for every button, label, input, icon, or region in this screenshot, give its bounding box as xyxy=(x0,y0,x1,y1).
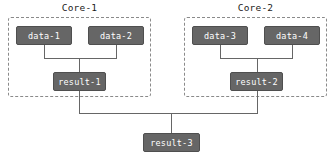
node-result-3[interactable]: result-3 xyxy=(143,133,200,152)
node-data-1[interactable]: data-1 xyxy=(16,26,72,45)
diagram-canvas: Core-1 Core-2 data-1 data-2 data-3 data-… xyxy=(0,0,336,162)
node-data-2[interactable]: data-2 xyxy=(88,26,144,45)
node-data-3[interactable]: data-3 xyxy=(192,26,248,45)
node-result-2[interactable]: result-2 xyxy=(230,72,283,91)
group-title-core-2: Core-2 xyxy=(184,2,327,13)
node-data-4[interactable]: data-4 xyxy=(264,26,320,45)
node-result-1[interactable]: result-1 xyxy=(53,72,106,91)
group-title-core-1: Core-1 xyxy=(8,2,151,13)
